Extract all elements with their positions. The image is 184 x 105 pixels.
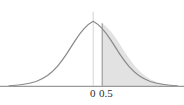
axis-tick-label-zscore: 0.5 — [99, 88, 113, 99]
normal-distribution-figure: 0 0.5 — [0, 0, 184, 105]
axis-tick-label-mean: 0 — [90, 88, 96, 99]
shaded-tail-region — [102, 24, 184, 87]
